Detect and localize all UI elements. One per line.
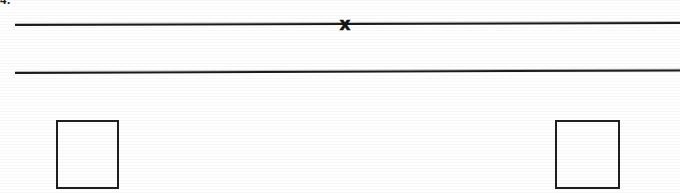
left-answer-box[interactable]	[56, 120, 119, 189]
item-number-label: 4.	[0, 0, 11, 6]
right-answer-box[interactable]	[555, 120, 620, 189]
worksheet-page: 4. x	[0, 0, 680, 193]
lower-rule-line	[15, 69, 680, 73]
x-mark-marker: x	[337, 14, 353, 34]
